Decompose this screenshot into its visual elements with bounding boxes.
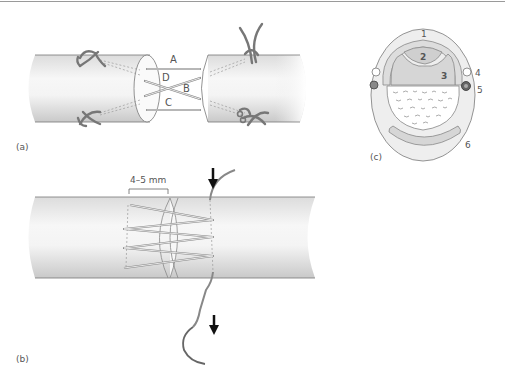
measurement-bracket (129, 189, 168, 194)
panel-c: 1 2 3 4 5 6 (c) (370, 29, 483, 162)
number-label-1: 1 (421, 29, 427, 39)
anastomosis-diagram: A B C D (a) 4–5 (0, 0, 505, 378)
panel-label-b: (b) (16, 354, 29, 364)
suture-label-c: C (165, 97, 172, 108)
number-label-5: 5 (477, 85, 483, 95)
structure-4-left (372, 68, 380, 76)
panel-a: A B C D (a) (16, 24, 306, 152)
structure-4 (463, 68, 471, 76)
suture-label-a: A (170, 54, 177, 65)
measurement-label: 4–5 mm (130, 175, 166, 185)
number-label-2: 2 (420, 52, 426, 62)
panel-label-c: (c) (370, 152, 382, 162)
panel-b: 4–5 mm (b) (16, 168, 315, 364)
number-label-6: 6 (465, 140, 471, 150)
structure-5-left (370, 81, 378, 89)
suture-label-b: B (183, 83, 190, 94)
needle (183, 327, 205, 364)
suture-label-d: D (162, 72, 170, 83)
number-label-4: 4 (475, 68, 481, 78)
number-label-3: 3 (441, 71, 447, 81)
left-vessel-segment (29, 55, 151, 122)
panel-label-a: (a) (16, 142, 29, 152)
left-vessel-cut-end (134, 55, 160, 122)
